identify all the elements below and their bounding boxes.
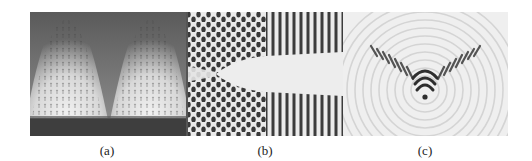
panel-a-image (30, 12, 186, 136)
panel-c-caption: (c) (405, 143, 445, 159)
figure: (a) (b) (c) (0, 0, 532, 161)
panel-c-image (343, 12, 508, 136)
panel-a-caption: (a) (87, 143, 127, 159)
panel-b-caption: (b) (245, 143, 285, 159)
panel-b-image (186, 12, 343, 136)
